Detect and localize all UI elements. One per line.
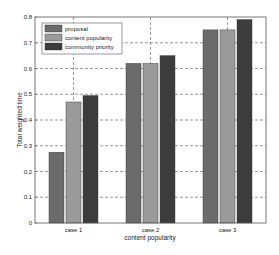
y-axis-label: Total weighted time: [16, 92, 24, 148]
y-tick-label: 0.2: [24, 169, 33, 175]
y-tick-label: 0.1: [24, 194, 33, 200]
legend: proposalcontent popularitycommunity prio…: [42, 23, 122, 54]
bar: [160, 56, 175, 223]
y-tick-label: 0.5: [24, 91, 33, 97]
y-tick-label: 0.7: [24, 40, 33, 46]
bar: [126, 63, 141, 223]
bar-chart: 00.10.20.30.40.50.60.70.8 case 1case 2ca…: [0, 0, 279, 255]
y-tick-label: 0.4: [24, 117, 33, 123]
bar: [203, 30, 218, 223]
y-tick-label: 0.3: [24, 143, 33, 149]
bar: [220, 30, 235, 223]
bar: [83, 96, 98, 223]
y-tick-label: 0.6: [24, 66, 33, 72]
bar: [143, 63, 158, 223]
x-tick-label: case 2: [142, 227, 160, 233]
legend-label: proposal: [65, 26, 88, 32]
legend-swatch: [45, 34, 62, 41]
bar: [66, 102, 81, 223]
y-tick-label: 0: [29, 220, 33, 226]
legend-label: content popularity: [65, 35, 112, 41]
bar: [49, 152, 64, 223]
x-axis-label: content popularity: [124, 234, 176, 242]
legend-swatch: [45, 25, 62, 32]
x-tick-label: case 1: [65, 227, 83, 233]
legend-swatch: [45, 43, 62, 50]
x-axis-ticks: case 1case 2case 3: [65, 227, 237, 233]
x-tick-label: case 3: [219, 227, 237, 233]
y-tick-label: 0.8: [24, 14, 33, 20]
legend-label: community priority: [65, 44, 114, 50]
bar: [237, 20, 252, 223]
